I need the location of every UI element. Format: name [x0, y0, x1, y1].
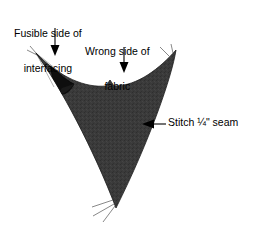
thread-tails-bottom — [92, 200, 115, 222]
sewing-diagram: Fusible side of interfacing Wrong side o… — [0, 0, 253, 235]
label-fusible-side-of-interfacing: Fusible side of interfacing — [14, 5, 82, 97]
label-fusible-line1: Fusible side of — [14, 28, 82, 40]
label-wrong-line1: Wrong side of — [85, 46, 150, 58]
label-wrong-side-of-fabric: Wrong side of fabric — [85, 23, 150, 115]
label-fusible-line2: interfacing — [14, 63, 82, 75]
thread-tails-top-right — [160, 44, 173, 56]
label-wrong-line2: fabric — [85, 81, 150, 93]
label-stitch-seam: Stitch ¼" seam — [168, 117, 238, 129]
